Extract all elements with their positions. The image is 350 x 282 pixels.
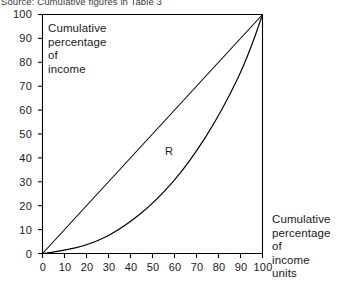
ytick-label: 70 — [4, 81, 32, 92]
ytick-label: 30 — [4, 177, 32, 188]
ytick-label: 20 — [4, 201, 32, 212]
ytick-label: 40 — [4, 153, 32, 164]
ytick-label: 60 — [4, 105, 32, 116]
x-axis-ticks — [43, 254, 263, 259]
x-axis-title: Cumulative percentage of income units — [272, 213, 331, 281]
ytick-label: 10 — [4, 225, 32, 236]
ytick-label: 90 — [4, 33, 32, 44]
y-axis-title: Cumulative percentage of income — [48, 22, 107, 76]
ytick-label: 100 — [4, 9, 32, 20]
ytick-label: 0 — [4, 249, 32, 260]
ytick-label: 50 — [4, 129, 32, 140]
ytick-label: 80 — [4, 57, 32, 68]
region-label-r: R — [165, 146, 173, 157]
lorenz-curve-figure: Source: Cumulative figures in Table 3 — [0, 0, 350, 282]
y-axis-ticks — [38, 15, 43, 254]
